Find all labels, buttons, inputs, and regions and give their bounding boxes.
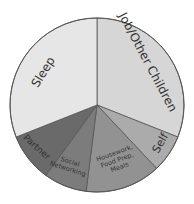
pie-chart: Job/Other ChildrenSelfHousework,Food Pre… bbox=[0, 0, 194, 204]
pie-chart-svg: Job/Other ChildrenSelfHousework,Food Pre… bbox=[0, 0, 194, 204]
